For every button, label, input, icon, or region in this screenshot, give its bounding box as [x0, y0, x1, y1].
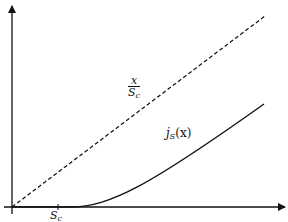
curve-js: [12, 104, 264, 207]
diagram-canvas: x Sc jS(x) Sc: [0, 0, 288, 222]
dashed-line-x-over-sc: [12, 16, 265, 207]
curve-label: jS(x): [166, 126, 191, 141]
dashed-line-label: x Sc: [128, 75, 140, 101]
label-denominator: Sc: [128, 87, 140, 101]
sc-tick-label: Sc: [50, 209, 62, 222]
plot-svg: [0, 0, 288, 222]
